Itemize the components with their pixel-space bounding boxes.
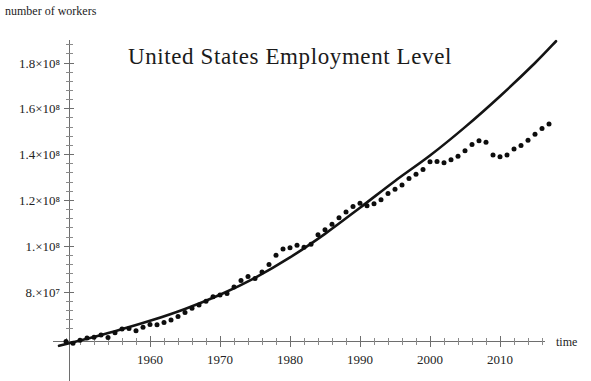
data-point: [337, 215, 342, 220]
data-point: [442, 160, 447, 165]
data-point: [141, 325, 146, 330]
chart-figure: 8.×10⁷1.×10⁸1.2×10⁸1.4×10⁸1.6×10⁸1.8×10⁸…: [0, 0, 591, 381]
data-point: [92, 335, 97, 340]
data-point: [113, 330, 118, 335]
data-point: [260, 269, 265, 274]
data-point: [246, 274, 251, 279]
data-point: [358, 201, 363, 206]
data-point: [71, 341, 76, 346]
data-point: [323, 227, 328, 232]
data-point: [316, 232, 321, 237]
data-point: [400, 183, 405, 188]
data-point: [414, 172, 419, 177]
data-point: [407, 176, 412, 181]
data-point: [379, 197, 384, 202]
y-tick-label: 1.6×10⁸: [19, 101, 61, 116]
data-point: [288, 245, 293, 250]
data-point: [421, 167, 426, 172]
data-point: [127, 326, 132, 331]
data-point: [295, 243, 300, 248]
data-point: [134, 328, 139, 333]
data-point: [386, 191, 391, 196]
data-point: [519, 143, 524, 148]
data-point: [512, 146, 517, 151]
x-tick-label: 1970: [207, 352, 233, 367]
data-point: [162, 320, 167, 325]
data-point: [309, 242, 314, 247]
y-tick-label: 1.×10⁸: [25, 239, 60, 254]
x-tick-label: 1980: [277, 352, 303, 367]
page-title: United States Employment Level: [128, 44, 452, 69]
data-point: [365, 203, 370, 208]
data-point: [477, 138, 482, 143]
data-point: [484, 140, 489, 145]
data-point: [372, 201, 377, 206]
data-point: [393, 187, 398, 192]
data-point: [120, 327, 125, 332]
data-point: [218, 293, 223, 298]
data-point: [456, 154, 461, 159]
employment-level-plot: 8.×10⁷1.×10⁸1.2×10⁸1.4×10⁸1.6×10⁸1.8×10⁸…: [0, 0, 591, 381]
data-point: [78, 338, 83, 343]
data-point: [498, 154, 503, 159]
data-point: [253, 276, 258, 281]
data-point: [449, 157, 454, 162]
data-point: [274, 253, 279, 258]
data-point: [267, 262, 272, 267]
data-point: [491, 152, 496, 157]
data-point: [211, 294, 216, 299]
y-tick-label: 1.8×10⁸: [19, 56, 61, 71]
data-point: [148, 322, 153, 327]
x-tick-label: 2010: [487, 352, 513, 367]
data-point: [428, 159, 433, 164]
data-point: [106, 335, 111, 340]
data-point: [526, 138, 531, 143]
data-point: [85, 335, 90, 340]
x-tick-label: 1990: [347, 352, 373, 367]
y-tick-label: 1.4×10⁸: [19, 147, 61, 162]
y-tick-label: 1.2×10⁸: [19, 193, 61, 208]
x-axis-label: time: [556, 335, 577, 349]
y-tick-label: 8.×10⁷: [25, 285, 60, 300]
data-point: [351, 204, 356, 209]
x-tick-label: 1960: [137, 352, 163, 367]
data-point: [204, 299, 209, 304]
x-tick-label: 2000: [417, 352, 443, 367]
data-point: [190, 306, 195, 311]
data-point: [239, 278, 244, 283]
data-point: [183, 310, 188, 315]
data-point: [463, 148, 468, 153]
data-point: [344, 209, 349, 214]
data-point: [533, 132, 538, 137]
data-point: [169, 318, 174, 323]
data-point: [330, 222, 335, 227]
data-point: [505, 152, 510, 157]
data-point: [302, 245, 307, 250]
data-point: [281, 246, 286, 251]
data-point: [435, 159, 440, 164]
data-point: [64, 339, 69, 344]
data-point: [225, 291, 230, 296]
data-point: [540, 126, 545, 131]
data-point: [99, 333, 104, 338]
data-point: [547, 122, 552, 127]
data-point: [155, 322, 160, 327]
data-point: [232, 285, 237, 290]
data-point: [470, 142, 475, 147]
data-point: [176, 314, 181, 319]
data-point: [197, 302, 202, 307]
y-axis-label: number of workers: [5, 4, 97, 18]
